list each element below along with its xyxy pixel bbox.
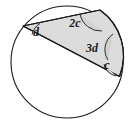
angle-label-c: c <box>104 58 110 72</box>
geometry-canvas: d 2c 3d c <box>0 0 135 133</box>
angle-label-d: d <box>33 25 40 39</box>
angle-label-3d: 3d <box>85 41 99 55</box>
angle-label-2c: 2c <box>68 16 81 30</box>
geometry-figure: d 2c 3d c <box>0 0 135 133</box>
